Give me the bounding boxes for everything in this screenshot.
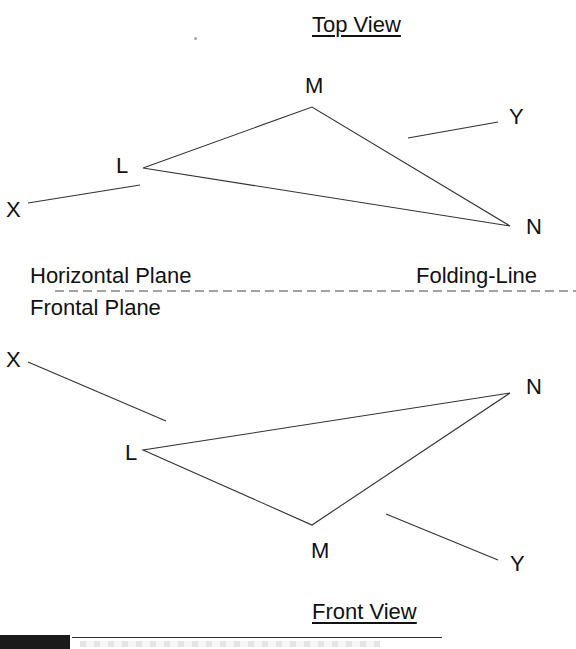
footer-faint-text	[80, 641, 380, 647]
footer-rule	[72, 637, 442, 638]
top-view-label-x: X	[6, 199, 21, 221]
top-view-triangle-lmn	[143, 107, 510, 226]
horizontal-plane-label: Horizontal Plane	[30, 265, 191, 287]
folding-line-label: Folding-Line	[416, 265, 537, 287]
front-view-label-y: Y	[510, 553, 525, 575]
front-view-line-y	[386, 514, 498, 560]
frontal-plane-label: Frontal Plane	[30, 297, 161, 319]
front-view-label-n: N	[526, 376, 542, 398]
front-view-label-l: L	[125, 442, 137, 464]
top-view-title: Top View	[312, 14, 401, 36]
top-view-label-m: M	[305, 75, 323, 97]
front-view-triangle-lmn	[143, 393, 510, 525]
top-view-label-n: N	[526, 216, 542, 238]
front-view-label-x: X	[6, 349, 21, 371]
top-view-label-l: L	[116, 155, 128, 177]
top-view-line-x	[28, 185, 140, 203]
top-view-line-y	[408, 122, 498, 138]
footer-dark-block	[0, 635, 70, 649]
front-view-title: Front View	[312, 601, 417, 623]
top-view-label-y: Y	[509, 106, 524, 128]
orthographic-projection-diagram: Top View M L N X Y Horizontal Plane Fold…	[0, 0, 576, 649]
front-view-label-m: M	[311, 540, 329, 562]
front-view-line-x	[28, 362, 166, 421]
diagram-lines	[0, 0, 576, 649]
